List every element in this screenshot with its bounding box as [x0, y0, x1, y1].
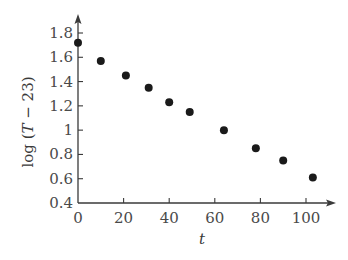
y-tick-label: 0.8: [49, 145, 73, 163]
data-point: [186, 108, 194, 116]
y-tick-label: 1.4: [49, 73, 73, 91]
data-point: [165, 98, 173, 106]
data-point: [279, 157, 287, 165]
data-point: [309, 174, 317, 182]
x-axis-label: t: [199, 230, 206, 248]
y-axis-label-suffix: − 23): [19, 76, 37, 123]
x-tick-label: 60: [205, 209, 224, 227]
y-tick-label: 0.6: [49, 170, 73, 188]
x-tick-label: 20: [114, 209, 133, 227]
y-tick-label: 1: [63, 121, 73, 139]
data-point: [220, 126, 228, 134]
y-axis-label-prefix: log (: [19, 134, 37, 168]
data-point: [74, 39, 82, 47]
y-tick-label: 1.6: [49, 48, 73, 66]
data-point: [97, 57, 105, 65]
x-tick-label: 0: [73, 209, 83, 227]
data-point: [252, 144, 260, 152]
x-tick-label: 100: [292, 209, 321, 227]
data-points: [74, 39, 317, 182]
data-point: [122, 72, 130, 80]
x-tick-label: 40: [160, 209, 179, 227]
axes: [75, 14, 337, 207]
y-tick-label: 1.2: [49, 97, 73, 115]
data-point: [145, 84, 153, 92]
scatter-chart: 020406080100 0.40.60.811.21.41.61.8 t lo…: [0, 0, 348, 260]
y-tick-label: 0.4: [49, 194, 73, 212]
x-tick-label: 80: [251, 209, 270, 227]
y-tick-label: 1.8: [49, 24, 73, 42]
y-axis-label: log (T − 23): [19, 76, 37, 167]
